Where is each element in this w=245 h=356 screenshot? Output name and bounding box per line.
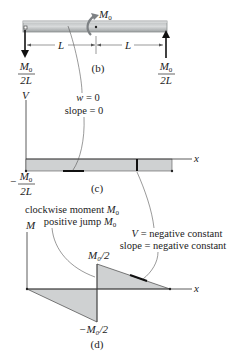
annotation-zero-load: w = 0 slope = 0 <box>65 92 104 116</box>
annotation-leader-slope <box>143 252 158 279</box>
shear-value-label: − M0 2L <box>10 170 35 197</box>
moment-panel: clockwise moment M0 positive jump M0 M V… <box>25 172 226 351</box>
left-reaction-label: M0 2L <box>18 60 35 86</box>
shear-region <box>26 159 172 171</box>
applied-moment-label: M0 <box>98 8 112 22</box>
caption-c: (c) <box>91 182 104 195</box>
svg-text:−: − <box>10 175 16 187</box>
svg-text:positive jump M0: positive jump M0 <box>44 216 117 229</box>
svg-text:2L: 2L <box>160 74 172 86</box>
shear-axis-label: V <box>22 89 30 101</box>
svg-text:slope = 0: slope = 0 <box>65 105 104 116</box>
moment-application-point <box>95 26 97 28</box>
svg-text:slope = negative constant: slope = negative constant <box>120 240 227 251</box>
svg-text:M0: M0 <box>19 60 33 74</box>
annotation-leader-zero-load <box>68 26 82 93</box>
span-label-right: L <box>124 39 131 51</box>
shear-x-label: x <box>193 152 199 164</box>
left-reaction-arrow-icon <box>21 50 29 58</box>
caption-d: (d) <box>91 338 104 351</box>
svg-text:2L: 2L <box>20 185 32 197</box>
diagram-canvas: M0 L L M0 2L M0 2L (b) <box>0 0 245 356</box>
moment-x-label: x <box>193 282 199 294</box>
annotation-slope: V = negative constant slope = negative c… <box>120 228 227 251</box>
svg-text:M0: M0 <box>159 60 173 74</box>
moment-axis-label: M <box>25 219 36 231</box>
shear-panel: V x − M0 2L (c) w = 0 slope = 0 <box>10 26 199 197</box>
svg-text:2L: 2L <box>20 74 32 86</box>
caption-b: (b) <box>92 62 105 75</box>
beam-panel: M0 L L M0 2L M0 2L (b) <box>18 8 175 86</box>
moment-top-label: M₀/2 <box>87 249 110 261</box>
moment-bottom-label: −M₀/2 <box>79 323 108 335</box>
svg-text:w = 0: w = 0 <box>76 92 99 103</box>
left-support-pin <box>24 26 27 29</box>
svg-text:V = negative constant: V = negative constant <box>132 228 223 239</box>
span-label-left: L <box>57 39 64 51</box>
annotation-jump: clockwise moment M0 positive jump M0 <box>25 204 119 229</box>
svg-text:M0: M0 <box>19 170 33 184</box>
moment-region-negative <box>27 289 97 322</box>
right-reaction-label: M0 2L <box>158 60 175 86</box>
